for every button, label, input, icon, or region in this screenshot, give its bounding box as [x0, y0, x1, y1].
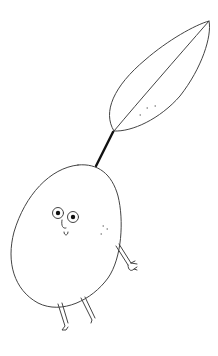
hand — [128, 261, 137, 270]
illustration-canvas — [0, 0, 218, 356]
cheek-freckles — [101, 226, 108, 234]
olive-character-drawing — [0, 0, 218, 356]
mouth — [64, 232, 68, 235]
right-leg — [81, 297, 95, 323]
olive-body — [11, 165, 121, 307]
right-pupil — [71, 215, 75, 219]
leaf-freckles — [140, 106, 156, 115]
nose — [62, 220, 66, 228]
left-pupil — [56, 211, 60, 215]
stem — [96, 132, 113, 166]
